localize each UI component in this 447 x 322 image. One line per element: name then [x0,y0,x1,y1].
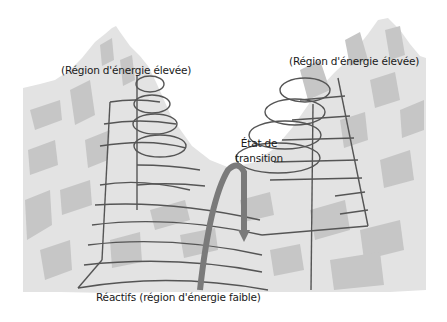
transition-state-line2: transition [229,151,289,166]
reactants-label: Réactifs (région d'énergie faible) [96,291,261,303]
high-energy-region-left-label: (Région d'énergie élevée) [61,64,191,76]
high-energy-region-right-label: (Région d'énergie élevée) [289,55,419,67]
energy-landscape-illustration [0,0,447,322]
transition-state-label: État de transition [229,136,289,166]
transition-state-line1: État de [229,136,289,151]
